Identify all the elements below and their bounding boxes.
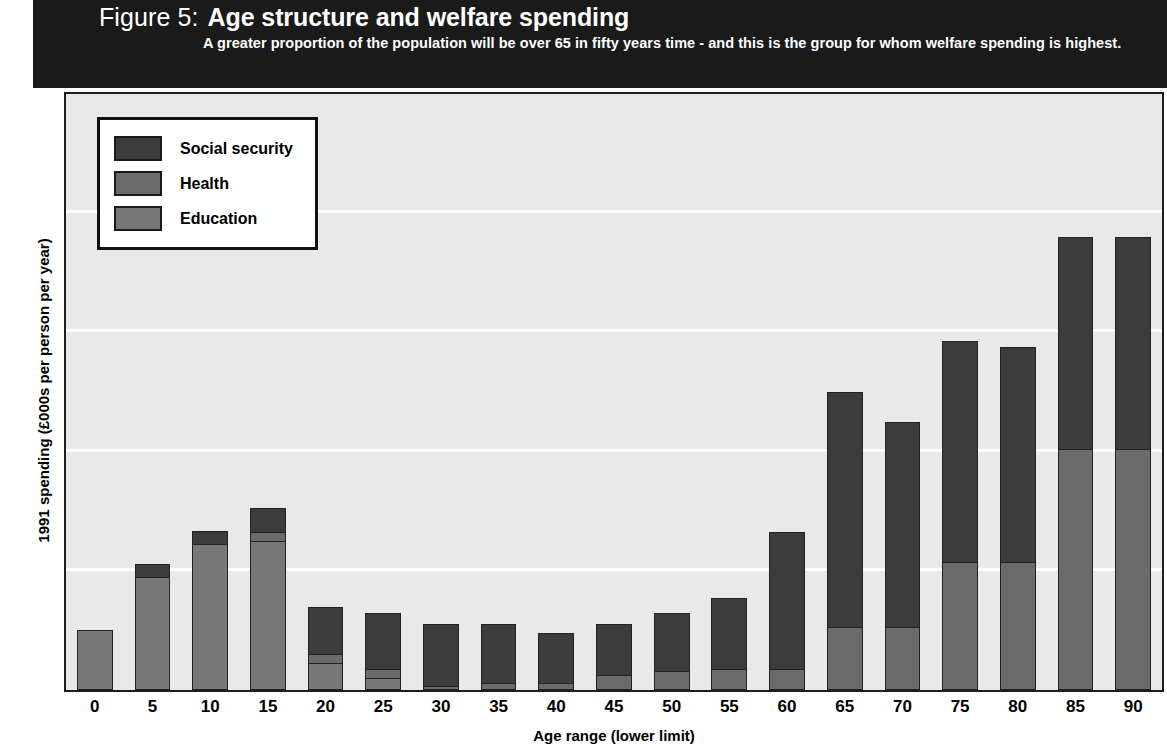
bar-segment (135, 577, 171, 690)
bar-column (77, 630, 113, 690)
bar-segment (885, 422, 921, 628)
bar-column (1058, 237, 1094, 690)
bar-column (769, 532, 805, 690)
bar-segment (135, 564, 171, 577)
x-tick-label: 80 (1008, 697, 1027, 717)
x-tick-label: 50 (662, 697, 681, 717)
x-axis-ticks: 051015202530354045505560657075808590 (64, 697, 1164, 723)
bar-segment (596, 675, 632, 690)
bar-column (538, 633, 574, 690)
bar-segment (481, 624, 517, 682)
legend-item-social-security: Social security (114, 131, 293, 166)
bar-column (1115, 237, 1151, 690)
bar-segment (1115, 237, 1151, 449)
bar-segment (711, 598, 747, 670)
x-tick-label: 25 (374, 697, 393, 717)
bar-column (1000, 347, 1036, 690)
bar-segment (1058, 449, 1094, 690)
bar-segment (1115, 449, 1151, 690)
bar-column (192, 531, 228, 690)
legend-item-health: Health (114, 166, 293, 201)
plot-area: Social security Health Education (64, 92, 1164, 692)
bar-column (308, 607, 344, 690)
x-tick-label: 35 (489, 697, 508, 717)
title-row: Figure 5: Age structure and welfare spen… (99, 2, 1167, 32)
bar-column (596, 624, 632, 690)
bar-segment (481, 683, 517, 690)
bar-column (885, 422, 921, 690)
x-tick-label: 10 (201, 697, 220, 717)
x-tick-label: 70 (893, 697, 912, 717)
legend-label-social-security: Social security (180, 140, 293, 158)
bar-segment (308, 663, 344, 690)
bar-segment (308, 654, 344, 663)
bar-segment (769, 669, 805, 690)
bar-segment (827, 392, 863, 627)
bar-column (481, 624, 517, 690)
bar-column (654, 613, 690, 690)
bar-segment (827, 627, 863, 690)
x-tick-label: 85 (1066, 697, 1085, 717)
x-tick-label: 40 (547, 697, 566, 717)
bar-column (711, 598, 747, 690)
bar-column (365, 613, 401, 690)
bar-column (250, 508, 286, 690)
figure-subtitle: A greater proportion of the population w… (203, 34, 1148, 53)
x-tick-label: 5 (148, 697, 157, 717)
bar-segment (192, 531, 228, 544)
bar-segment (942, 341, 978, 562)
bar-segment (250, 541, 286, 690)
bar-column (135, 564, 171, 690)
figure-title: Age structure and welfare spending (208, 2, 630, 32)
legend-swatch-social-security-icon (114, 136, 162, 161)
bar-segment (596, 624, 632, 675)
bar-segment (77, 630, 113, 690)
x-tick-label: 60 (778, 697, 797, 717)
bar-segment (365, 678, 401, 690)
x-tick-label: 75 (951, 697, 970, 717)
x-tick-label: 65 (835, 697, 854, 717)
bar-segment (250, 532, 286, 541)
x-tick-label: 55 (720, 697, 739, 717)
bar-segment (192, 544, 228, 690)
bar-segment (538, 633, 574, 682)
legend: Social security Health Education (97, 117, 318, 250)
x-axis-title: Age range (lower limit) (64, 727, 1164, 744)
legend-swatch-health-icon (114, 171, 162, 196)
bar-segment (538, 683, 574, 690)
bar-column (827, 392, 863, 690)
bar-segment (711, 669, 747, 690)
figure-number-label: Figure 5: (99, 2, 199, 32)
x-tick-label: 90 (1124, 697, 1143, 717)
bar-segment (654, 671, 690, 690)
title-banner: Figure 5: Age structure and welfare spen… (33, 0, 1167, 88)
bar-segment (1058, 237, 1094, 449)
bar-segment (423, 624, 459, 685)
bar-segment (1000, 562, 1036, 690)
legend-item-education: Education (114, 201, 293, 236)
bar-segment (250, 508, 286, 532)
legend-label-health: Health (180, 175, 229, 193)
legend-swatch-education-icon (114, 206, 162, 231)
bar-column (942, 341, 978, 690)
bar-segment (769, 532, 805, 669)
x-tick-label: 15 (258, 697, 277, 717)
bar-column (423, 624, 459, 690)
bar-segment (1000, 347, 1036, 562)
bar-segment (423, 686, 459, 690)
x-tick-label: 30 (431, 697, 450, 717)
bar-segment (654, 613, 690, 671)
x-tick-label: 45 (605, 697, 624, 717)
bar-segment (365, 613, 401, 670)
bar-segment (942, 562, 978, 690)
x-tick-label: 20 (316, 697, 335, 717)
bar-segment (365, 669, 401, 678)
x-tick-label: 0 (90, 697, 99, 717)
bar-segment (885, 627, 921, 690)
figure-container: Figure 5: Age structure and welfare spen… (0, 0, 1167, 755)
legend-label-education: Education (180, 210, 257, 228)
bar-segment (308, 607, 344, 655)
